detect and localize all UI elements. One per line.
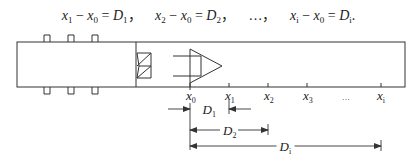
top-tab-3 (92, 35, 98, 42)
axis-tick-label: x3 (302, 88, 313, 105)
bottom-tab-1 (44, 87, 50, 94)
bottom-tab-3 (92, 87, 98, 94)
bottom-tab-2 (68, 87, 74, 94)
dimension-label: Di (279, 139, 292, 156)
dimension-label: D2 (222, 123, 236, 140)
top-tab-1 (44, 35, 50, 42)
dimension-label: D1 (202, 102, 216, 119)
axis-tick-label: xi (376, 88, 386, 105)
top-tab-2 (68, 35, 74, 42)
emitter-shape (137, 53, 151, 78)
tube-body (17, 42, 405, 87)
axis-tick-label: x2 (263, 88, 274, 105)
axis-tick-label: … (342, 93, 350, 102)
measurement-diagram: x0x1x2x3…xi D1D2Di (0, 0, 417, 161)
probe-shape (173, 49, 222, 90)
axis-tick-label: x0 (185, 88, 196, 105)
